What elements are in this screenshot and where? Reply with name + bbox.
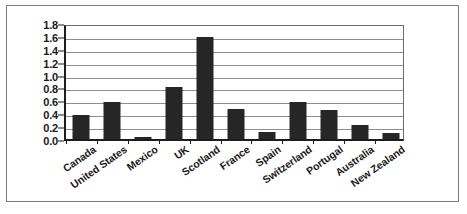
bar-slot <box>313 26 344 139</box>
bar <box>73 115 90 139</box>
x-axis-category-label: Mexico <box>124 143 160 173</box>
bar <box>135 137 152 139</box>
bar <box>320 110 337 139</box>
bar-slot <box>159 26 190 139</box>
x-axis-category-label: UK <box>171 143 190 161</box>
bar <box>197 37 214 139</box>
y-axis-tick-marks <box>7 25 64 141</box>
bar-slot <box>251 26 282 139</box>
bar-slot <box>97 26 128 139</box>
bar <box>382 133 399 139</box>
bar-slot <box>375 26 406 139</box>
bar-slot <box>221 26 252 139</box>
bar-series <box>66 26 403 139</box>
bar <box>166 87 183 139</box>
chart-frame: 1.81.61.41.21.00.80.60.40.20.0 CanadaUni… <box>6 5 459 202</box>
bar <box>227 109 244 139</box>
bar-slot <box>66 26 97 139</box>
bar <box>351 125 368 139</box>
x-axis-category-labels: CanadaUnited StatesMexicoUKScotlandFranc… <box>64 143 404 213</box>
bar <box>104 102 121 139</box>
bar <box>258 132 275 139</box>
bar-slot <box>190 26 221 139</box>
x-axis-category-label: France <box>218 143 253 172</box>
bar <box>289 102 306 139</box>
bar-slot <box>282 26 313 139</box>
bar-slot <box>344 26 375 139</box>
plot-area <box>64 25 404 141</box>
bar-slot <box>128 26 159 139</box>
